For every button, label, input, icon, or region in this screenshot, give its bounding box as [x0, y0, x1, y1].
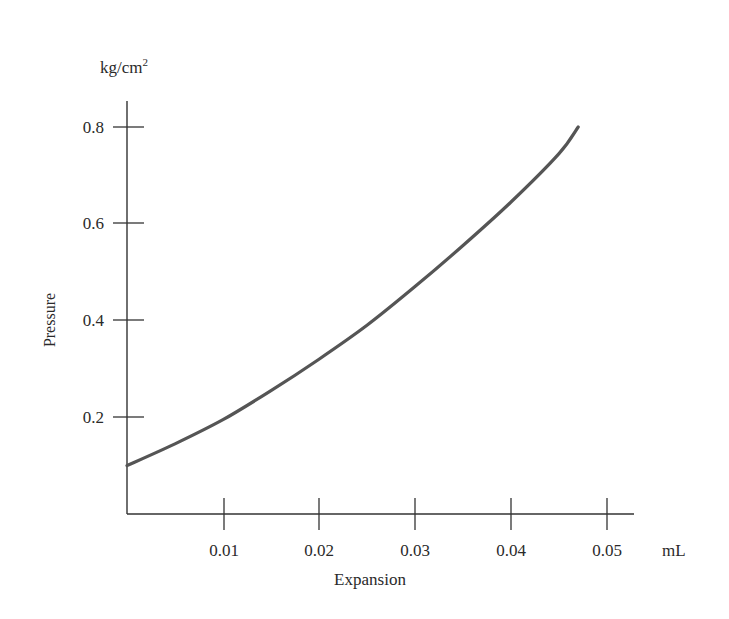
x-ticks: 0.01 0.02 0.03 0.04 0.05	[209, 498, 622, 560]
x-tick-label: 0.02	[304, 541, 334, 560]
y-unit-label: kg/cm2	[100, 56, 148, 77]
x-tick-label: 0.04	[496, 541, 526, 560]
y-tick-label: 0.6	[83, 214, 104, 233]
x-unit-label: mL	[662, 541, 686, 560]
x-axis-title: Expansion	[334, 570, 406, 589]
x-tick-label: 0.03	[400, 541, 430, 560]
y-tick-label: 0.8	[83, 118, 104, 137]
pressure-expansion-chart: kg/cm2 Pressure 0.2 0.4 0.6 0.8 0.01 0.0…	[0, 0, 729, 619]
x-tick-label: 0.05	[592, 541, 622, 560]
y-tick-label: 0.2	[83, 408, 104, 427]
y-axis-title: Pressure	[41, 293, 58, 347]
y-ticks: 0.2 0.4 0.6 0.8	[83, 118, 144, 427]
pressure-curve	[127, 127, 578, 466]
x-tick-label: 0.01	[209, 541, 239, 560]
y-tick-label: 0.4	[83, 311, 105, 330]
